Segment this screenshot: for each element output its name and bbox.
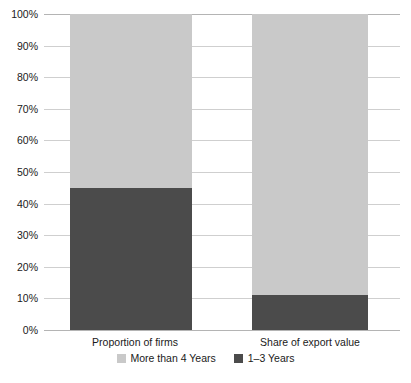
y-axis-label-30: 30% bbox=[0, 230, 38, 241]
legend-label: 1–3 Years bbox=[248, 353, 295, 364]
gridline-0 bbox=[44, 330, 400, 331]
x-axis-label-share-of-export-value: Share of export value bbox=[185, 336, 411, 348]
y-axis-label-80: 80% bbox=[0, 72, 38, 83]
stacked-bar-chart: 100% 90% 80% 70% 60% 50% 40% 30% bbox=[0, 0, 411, 383]
y-axis-label-10: 10% bbox=[0, 293, 38, 304]
legend-swatch-icon bbox=[117, 354, 126, 363]
y-axis-label-40: 40% bbox=[0, 199, 38, 210]
y-axis-label-50: 50% bbox=[0, 167, 38, 178]
y-axis-label-60: 60% bbox=[0, 135, 38, 146]
bar-segment-1-3-years[interactable] bbox=[252, 295, 368, 330]
y-axis-label-0: 0% bbox=[0, 325, 38, 336]
bar-segment-more-than-4-years[interactable] bbox=[252, 14, 368, 295]
bar-segment-more-than-4-years[interactable] bbox=[70, 14, 192, 188]
bar-segment-1-3-years[interactable] bbox=[70, 188, 192, 330]
legend-item-more-than-4-years[interactable]: More than 4 Years bbox=[117, 353, 216, 364]
y-axis-label-20: 20% bbox=[0, 262, 38, 273]
bar-proportion-of-firms[interactable] bbox=[70, 14, 192, 330]
legend-swatch-icon bbox=[234, 354, 243, 363]
y-axis-label-90: 90% bbox=[0, 41, 38, 52]
legend-item-1-3-years[interactable]: 1–3 Years bbox=[234, 353, 295, 364]
legend: More than 4 Years 1–3 Years bbox=[0, 353, 411, 364]
y-axis-label-100: 100% bbox=[0, 9, 38, 20]
legend-label: More than 4 Years bbox=[131, 353, 216, 364]
y-axis-label-70: 70% bbox=[0, 104, 38, 115]
bar-share-of-export-value[interactable] bbox=[252, 14, 368, 330]
plot-area: 100% 90% 80% 70% 60% 50% 40% 30% bbox=[44, 14, 400, 330]
